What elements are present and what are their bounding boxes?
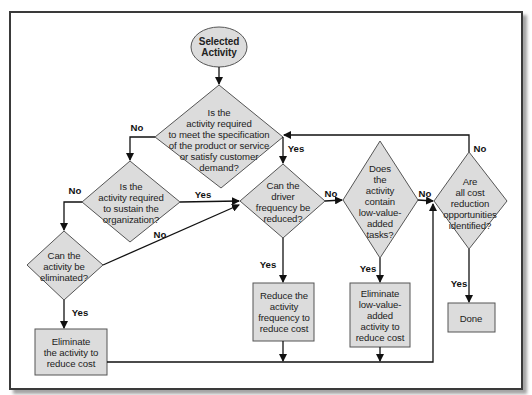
- label-d3-no: No: [325, 188, 338, 199]
- label-d5-no: No: [474, 143, 487, 154]
- label-d2-no: No: [69, 185, 82, 196]
- start-node-text: Selected Activity: [199, 36, 239, 58]
- label-d1-no: No: [131, 122, 144, 133]
- d3-text: Can the driver frequency be reduced?: [256, 180, 310, 224]
- label-d1-yes: Yes: [288, 143, 305, 154]
- label-d4-yes: Yes: [360, 263, 377, 274]
- label-d2-yes: Yes: [195, 189, 212, 200]
- d5-text: Are all cost reduction opportunities ide…: [443, 176, 497, 231]
- label-d6-no: No: [154, 229, 167, 240]
- d2-text: Is the activity required to sustain the …: [98, 181, 164, 225]
- label-d5-yes: Yes: [451, 278, 468, 289]
- p4-text: Done: [460, 313, 483, 324]
- d1-text: Is the activity required to meet the spe…: [169, 107, 270, 173]
- label-d6-yes: Yes: [72, 307, 89, 318]
- p2-text: Reduce the activity frequency to reduce …: [258, 290, 310, 334]
- label-d3-yes: Yes: [260, 259, 277, 270]
- d4-text: Does the activity contain low-value- add…: [359, 163, 402, 240]
- p3-text: Eliminate low-value- added activity to r…: [356, 288, 405, 343]
- p1-text: Eliminate the activity to reduce cost: [44, 336, 99, 369]
- label-d4-no: No: [419, 188, 432, 199]
- d6-text: Can the activity be eliminated?: [40, 250, 88, 283]
